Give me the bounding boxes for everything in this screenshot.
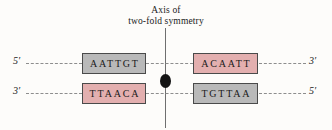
backbone-dashed-segment-right: [259, 93, 306, 94]
bottom-strand-left-end-label: 3′: [13, 85, 20, 96]
dna-two-fold-symmetry-figure: Axis of two-fold symmetry 5′ 3′ AATTGT A…: [0, 0, 332, 130]
axis-title-line-2: two-fold symmetry: [0, 16, 332, 27]
strand-row-top: 5′ 3′ AATTGT ACAATT: [0, 53, 332, 75]
sequence-text: AATTGT: [88, 58, 139, 69]
backbone-dashed-segment-middle: [146, 63, 193, 64]
sequence-text: TGTTAA: [200, 88, 252, 99]
top-strand-left-sequence-box: AATTGT: [82, 53, 146, 74]
sequence-text: ACAATT: [199, 58, 251, 69]
axis-title-line-1: Axis of: [0, 5, 332, 16]
backbone-dashed-segment-middle: [146, 93, 193, 94]
backbone-dashed-segment-left: [26, 93, 82, 94]
dyad-symmetry-marker-icon: [160, 74, 171, 88]
top-strand-right-end-label: 3′: [309, 55, 316, 66]
backbone-dashed-segment-left: [26, 63, 82, 64]
bottom-strand-left-sequence-box: TTAACA: [82, 83, 146, 104]
bottom-strand-right-end-label: 5′: [309, 85, 316, 96]
bottom-strand-right-sequence-box: TGTTAA: [193, 83, 258, 104]
top-strand-right-sequence-box: ACAATT: [193, 53, 258, 74]
axis-title: Axis of two-fold symmetry: [0, 5, 332, 27]
sequence-text: TTAACA: [88, 88, 140, 99]
top-strand-left-end-label: 5′: [13, 55, 20, 66]
backbone-dashed-segment-right: [259, 63, 306, 64]
